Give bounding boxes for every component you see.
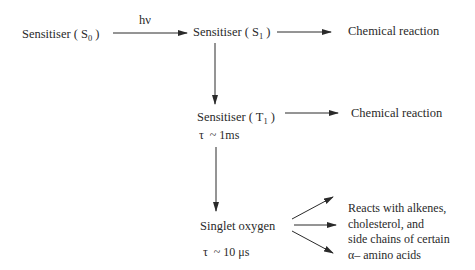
outcome-line: cholesterol, and [348,217,450,233]
lifetime-t1: τ ~ 1ms [199,128,239,142]
node-sensitiser-s0: Sensitiser ( S0 ) [22,27,100,41]
lifetime-singlet-oxygen: τ ~ 10 μs [203,245,249,259]
node-state: S [81,27,88,41]
arrow-singlet-up [292,197,333,219]
node-state: S [252,25,259,39]
node-label: Sensitiser ( [22,27,78,41]
excitation-label: hν [139,13,151,27]
outcome-singlet-oxygen-reactions: Reacts with alkenes, cholesterol, and si… [348,201,450,263]
node-label: Sensitiser ( [193,25,249,39]
outcome-line: α– amino acids [348,248,450,264]
node-sensitiser-s1: Sensitiser ( S1 ) [193,25,271,39]
node-label: Sensitiser ( [197,110,253,124]
node-suffix: ) [92,27,99,41]
outcome-s1-chemical-reaction: Chemical reaction [348,24,439,38]
node-singlet-oxygen: Singlet oxygen [200,219,275,233]
node-suffix: ) [263,25,270,39]
outcome-line: Reacts with alkenes, [348,201,450,217]
outcome-line: side chains of certain [348,232,450,248]
node-sensitiser-t1: Sensitiser ( T1 ) [197,110,275,124]
node-suffix: ) [268,110,275,124]
arrow-singlet-down [292,231,333,253]
outcome-t1-chemical-reaction: Chemical reaction [351,106,442,120]
